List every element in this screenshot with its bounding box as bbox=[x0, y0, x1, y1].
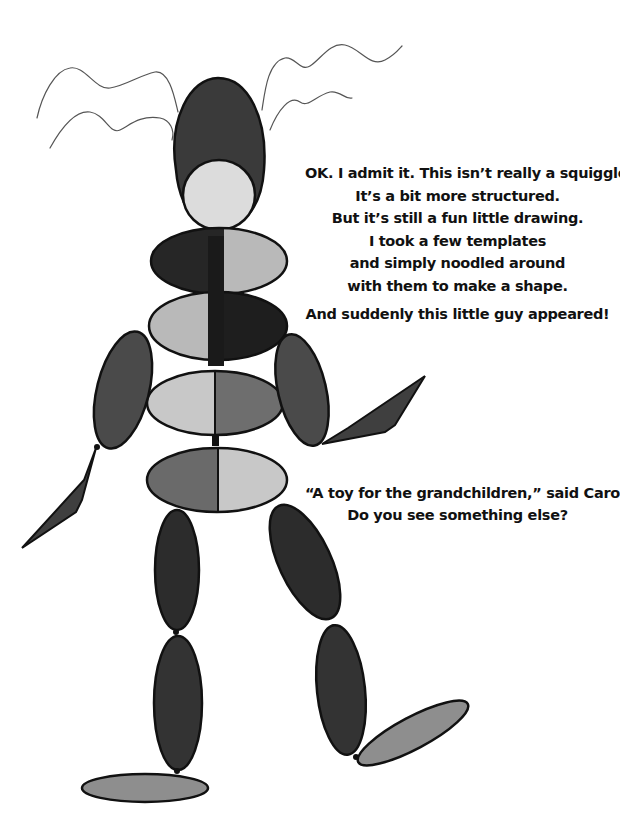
caption-paragraph-1: OK. I admit it. This isn’t really a squi… bbox=[305, 162, 610, 326]
caption-line: I took a few templates bbox=[305, 230, 610, 253]
caption-line: “A toy for the grandchildren,” said Caro… bbox=[305, 482, 610, 504]
caption-line: OK. I admit it. This isn’t really a squi… bbox=[305, 162, 610, 185]
left-arm bbox=[22, 325, 163, 548]
right-leg bbox=[255, 495, 475, 776]
torso-segment-3 bbox=[145, 368, 285, 438]
caption-paragraph-2: “A toy for the grandchildren,” said Caro… bbox=[305, 482, 610, 526]
toy-figure-illustration bbox=[0, 0, 620, 828]
caption-line: with them to make a shape. bbox=[305, 275, 610, 298]
right-arm bbox=[266, 329, 425, 451]
caption-line: and simply noodled around bbox=[305, 252, 610, 275]
caption-line: But it’s still a fun little drawing. bbox=[305, 207, 610, 230]
head bbox=[174, 78, 264, 230]
caption-line: Do you see something else? bbox=[305, 504, 610, 526]
spine-band bbox=[208, 236, 224, 366]
left-leg bbox=[82, 510, 208, 802]
caption-line: It’s a bit more structured. bbox=[305, 185, 610, 208]
caption-line: And suddenly this little guy appeared! bbox=[305, 303, 610, 326]
torso-segment-4 bbox=[145, 445, 290, 515]
